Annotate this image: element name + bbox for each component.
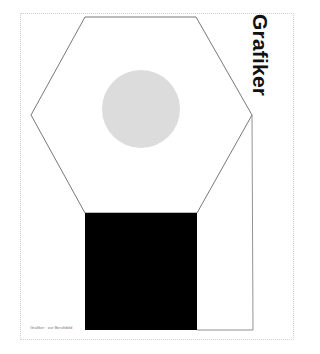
gray-circle <box>102 70 180 148</box>
poster-title: Grafiker <box>250 14 271 96</box>
black-rectangle <box>85 213 197 330</box>
poster-caption: Grafiker · zur Berufsbild <box>30 325 72 330</box>
